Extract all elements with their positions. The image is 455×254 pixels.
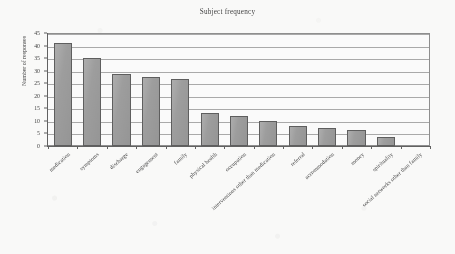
y-tick-label-5: 5: [37, 130, 40, 136]
x-tick-mark: [254, 146, 255, 149]
y-tick-mark-20: [44, 95, 47, 96]
bar: [112, 74, 130, 146]
x-axis-label: physical health: [187, 151, 217, 179]
x-tick-mark: [77, 146, 78, 149]
x-tick-mark: [371, 146, 372, 149]
x-axis-label: engagement: [134, 151, 159, 174]
y-tick-mark-5: [44, 133, 47, 134]
y-tick-mark-10: [44, 120, 47, 121]
bar: [201, 113, 219, 146]
bar: [142, 77, 160, 146]
y-tick-mark-0: [44, 146, 47, 147]
bar: [377, 137, 395, 146]
x-tick-mark: [48, 146, 49, 149]
x-axis-label: discharge: [109, 151, 130, 170]
x-axis-label: referral: [289, 151, 306, 167]
y-tick-label-30: 30: [34, 68, 40, 74]
y-tick-label-25: 25: [34, 80, 40, 86]
x-axis-label: occupation: [224, 151, 247, 173]
y-tick-mark-15: [44, 108, 47, 109]
y-tick-mark-25: [44, 83, 47, 84]
x-tick-mark: [224, 146, 225, 149]
x-tick-mark: [136, 146, 137, 149]
x-tick-mark: [401, 146, 402, 149]
x-axis-label: accommodation: [304, 151, 336, 180]
bars-layer: [48, 33, 430, 146]
y-tick-mark-35: [44, 58, 47, 59]
y-tick-mark-30: [44, 70, 47, 71]
x-axis-label: medication: [47, 151, 70, 173]
x-tick-mark: [430, 146, 431, 149]
y-tick-label-15: 15: [34, 105, 40, 111]
y-tick-label-35: 35: [34, 55, 40, 61]
bar: [83, 58, 101, 146]
bar: [54, 43, 72, 146]
x-tick-mark: [312, 146, 313, 149]
bar: [347, 130, 365, 146]
x-tick-mark: [342, 146, 343, 149]
y-tick-label-20: 20: [34, 93, 40, 99]
x-axis-label: family: [173, 151, 188, 166]
bar: [289, 126, 307, 146]
y-tick-label-10: 10: [34, 118, 40, 124]
y-tick-label-0: 0: [37, 143, 40, 149]
x-tick-mark: [195, 146, 196, 149]
y-tick-mark-40: [44, 45, 47, 46]
y-tick-label-40: 40: [34, 43, 40, 49]
y-axis-title: Number of responses: [21, 16, 27, 106]
x-tick-mark: [283, 146, 284, 149]
x-axis-label: social networks other than family: [361, 151, 423, 208]
bar: [318, 128, 336, 146]
x-axis-label: symptoms: [78, 151, 100, 171]
bar: [259, 121, 277, 146]
x-tick-mark: [166, 146, 167, 149]
x-axis-label: interventions other than medication: [211, 151, 277, 211]
x-axis-ticks: [48, 146, 430, 150]
y-tick-mark-45: [44, 33, 47, 34]
y-tick-label-45: 45: [34, 30, 40, 36]
chart-title: Subject frequency: [0, 8, 455, 16]
bar: [230, 116, 248, 146]
bar: [171, 79, 189, 146]
x-axis-label: money: [349, 151, 365, 166]
chart-page: Subject frequency 051015202530354045 Num…: [0, 0, 455, 254]
x-axis-label: spirituality: [371, 151, 394, 172]
x-tick-mark: [107, 146, 108, 149]
